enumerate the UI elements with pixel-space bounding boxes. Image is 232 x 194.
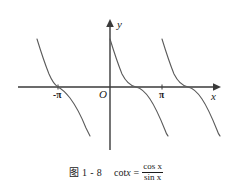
caption-figure-number: 图 1 - 8 bbox=[69, 167, 102, 178]
formula-equals-sign: = bbox=[134, 167, 140, 178]
formula-function-arg: x bbox=[126, 167, 130, 178]
figure-container: y x O -π π 图 1 - 8 cot x = cos x sin x bbox=[0, 0, 232, 194]
plot-svg bbox=[0, 0, 232, 160]
formula-fraction: cos x sin x bbox=[142, 162, 163, 183]
y-axis-arrowhead bbox=[106, 19, 114, 27]
cotangent-plot: y x O -π π bbox=[0, 0, 232, 160]
y-axis-label: y bbox=[117, 19, 122, 30]
formula-function-name: cot bbox=[114, 167, 126, 178]
caption-formula: cot x = cos x sin x bbox=[114, 162, 163, 183]
tick-label-pi: π bbox=[159, 91, 164, 101]
origin-label: O bbox=[99, 89, 107, 100]
fraction-denominator: sin x bbox=[143, 173, 162, 182]
figure-caption: 图 1 - 8 cot x = cos x sin x bbox=[0, 162, 232, 194]
cot-branch-partial-left bbox=[37, 39, 58, 87]
cot-branch-neg-pi-to-zero bbox=[58, 87, 90, 136]
fraction-numerator: cos x bbox=[142, 162, 163, 171]
tick-label-neg-pi: -π bbox=[53, 91, 61, 101]
x-axis-label: x bbox=[211, 91, 216, 102]
caption-inner: 图 1 - 8 cot x = cos x sin x bbox=[69, 162, 163, 183]
